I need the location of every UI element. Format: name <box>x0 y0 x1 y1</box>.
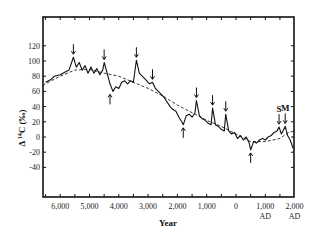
x-tick-sublabel: AD <box>260 212 272 221</box>
x-tick-label: 2,000 <box>286 202 304 211</box>
x-tick-sublabel: AD <box>289 212 301 221</box>
y-tick-label: 0 <box>36 133 40 142</box>
plot-border <box>43 17 294 197</box>
x-axis-ticks: 6,0005,0004,0003,0002,0001,00001,000AD2,… <box>46 17 304 221</box>
event-label: M <box>281 103 290 113</box>
trend-line <box>43 69 295 141</box>
data-line <box>46 57 294 150</box>
y-axis-ticks: 120100806040200-20-40 <box>28 42 294 173</box>
y-tick-label: -40 <box>29 163 40 172</box>
y-tick-label: 80 <box>32 72 40 81</box>
radiocarbon-chart: 6,0005,0004,0003,0002,0001,00001,000AD2,… <box>0 0 318 236</box>
y-tick-label: 60 <box>32 87 40 96</box>
x-tick-label: 5,000 <box>81 202 99 211</box>
x-tick-label: 3,000 <box>139 202 157 211</box>
y-tick-label: 100 <box>28 57 40 66</box>
x-tick-label: 1,000 <box>198 202 216 211</box>
x-tick-label: 1,000 <box>256 202 274 211</box>
y-axis-title: Δ 14C (‰) <box>17 109 27 146</box>
y-tick-label: -20 <box>29 148 40 157</box>
x-tick-label: 0 <box>234 202 238 211</box>
x-tick-label: 6,000 <box>51 202 69 211</box>
y-tick-label: 40 <box>32 103 40 112</box>
y-tick-label: 120 <box>28 42 40 51</box>
plot-frame <box>43 17 294 197</box>
x-axis-title: Year <box>159 218 177 228</box>
x-tick-label: 4,000 <box>110 202 128 211</box>
y-tick-label: 20 <box>32 118 40 127</box>
x-tick-label: 2,000 <box>168 202 186 211</box>
